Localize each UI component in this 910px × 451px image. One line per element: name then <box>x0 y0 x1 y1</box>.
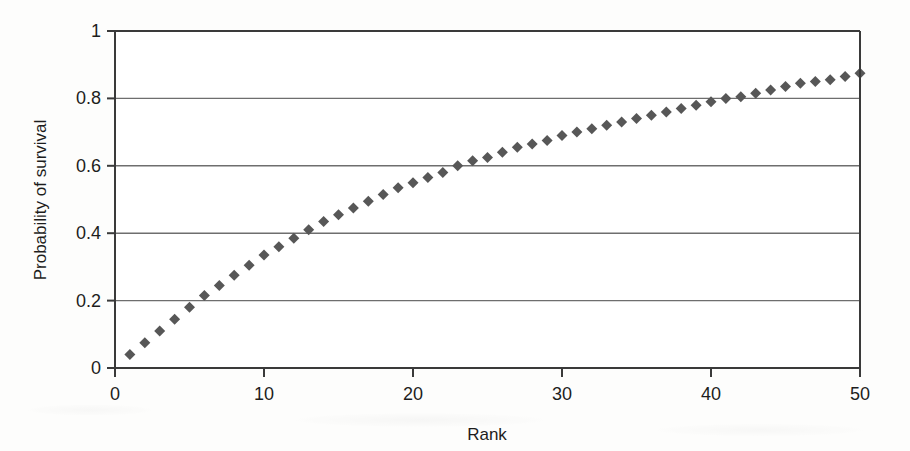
y-axis-ticks: 00.20.40.60.81 <box>76 21 115 378</box>
x-tick-label: 10 <box>254 384 274 404</box>
x-tick-label: 40 <box>701 384 721 404</box>
x-tick-label: 20 <box>403 384 423 404</box>
plot-area-background <box>115 31 860 368</box>
figure-container: 00.20.40.60.81 01020304050 Rank Probabil… <box>0 0 910 451</box>
y-tick-label: 0.8 <box>76 88 101 108</box>
x-tick-label: 30 <box>552 384 572 404</box>
y-axis-title: Probability of survival <box>31 120 50 281</box>
x-axis-title: Rank <box>467 425 507 444</box>
y-tick-label: 0 <box>91 358 101 378</box>
x-tick-label: 50 <box>850 384 870 404</box>
y-tick-label: 0.6 <box>76 156 101 176</box>
x-axis-ticks: 01020304050 <box>110 368 870 404</box>
y-tick-label: 0.2 <box>76 291 101 311</box>
survival-probability-chart: 00.20.40.60.81 01020304050 Rank Probabil… <box>0 0 910 451</box>
x-tick-label: 0 <box>110 384 120 404</box>
y-tick-label: 1 <box>91 21 101 41</box>
y-tick-label: 0.4 <box>76 223 101 243</box>
